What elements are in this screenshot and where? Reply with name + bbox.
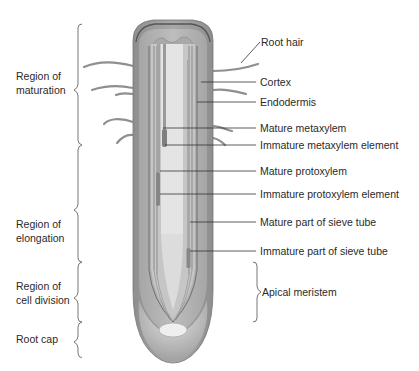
root-tip-diagram: Region of maturation Region of elongatio… bbox=[0, 0, 419, 371]
immature-protoxylem-element bbox=[156, 172, 160, 206]
root-illustration bbox=[0, 0, 419, 371]
immature-sieve-tube bbox=[187, 248, 191, 268]
label-root-hair: Root hair bbox=[261, 36, 304, 49]
root-hairs-right bbox=[213, 64, 258, 145]
label-mature-protoxylem: Mature protoxylem bbox=[260, 165, 347, 178]
root-hairs-left bbox=[84, 62, 133, 143]
region-cell-division-label: Region of cell division bbox=[16, 280, 70, 307]
label-immature-metaxylem-element: Immature metaxylem element bbox=[260, 139, 398, 152]
region-elongation-label: Region of elongation bbox=[16, 218, 64, 245]
apical-meristem-bracket bbox=[253, 262, 261, 322]
label-cortex: Cortex bbox=[260, 76, 291, 89]
mature-metaxylem bbox=[163, 44, 166, 129]
label-apical-meristem: Apical meristem bbox=[262, 286, 337, 299]
label-endodermis: Endodermis bbox=[260, 96, 316, 109]
label-mature-metaxylem: Mature metaxylem bbox=[260, 122, 346, 135]
region-maturation-label: Region of maturation bbox=[16, 70, 66, 97]
region-root-cap-label: Root cap bbox=[16, 333, 58, 347]
mature-protoxylem bbox=[157, 44, 160, 172]
label-immature-protoxylem-element: Immature protoxylem element bbox=[260, 188, 399, 201]
sieve-tube bbox=[187, 60, 190, 250]
label-immature-sieve-tube: Immature part of sieve tube bbox=[260, 245, 388, 258]
immature-metaxylem-element bbox=[162, 129, 167, 147]
quiescent-center bbox=[159, 323, 187, 337]
label-mature-sieve-tube: Mature part of sieve tube bbox=[260, 216, 376, 229]
region-brackets bbox=[74, 24, 82, 358]
